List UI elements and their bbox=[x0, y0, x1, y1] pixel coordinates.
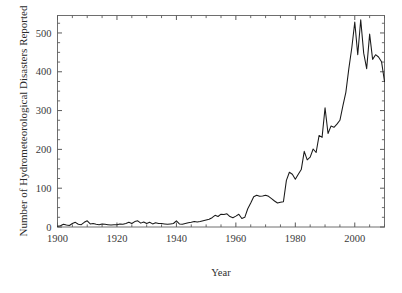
y-tick-label: 100 bbox=[36, 183, 52, 194]
y-axis-title: Number of Hydrometeorological Disasters … bbox=[17, 5, 29, 236]
data-series-line bbox=[58, 20, 385, 226]
y-tick-label: 200 bbox=[36, 144, 52, 155]
x-tick-label: 1900 bbox=[47, 233, 68, 244]
plot-frame bbox=[58, 16, 385, 228]
x-tick-label: 1920 bbox=[106, 233, 127, 244]
x-axis-minor-ticks bbox=[72, 16, 384, 228]
y-axis-minor-ticks bbox=[58, 23, 385, 217]
y-tick-label: 300 bbox=[36, 105, 52, 116]
x-axis-major-ticks bbox=[58, 16, 355, 228]
y-tick-label: 400 bbox=[36, 66, 52, 77]
y-axis-major-ticks bbox=[58, 33, 385, 227]
x-tick-label: 1980 bbox=[285, 233, 306, 244]
x-tick-label: 1940 bbox=[166, 233, 187, 244]
y-tick-label: 0 bbox=[46, 222, 51, 233]
x-axis-title: Year bbox=[211, 267, 231, 278]
y-tick-label: 500 bbox=[36, 28, 52, 39]
x-tick-label: 2000 bbox=[344, 233, 365, 244]
chart-figure: 190019201940196019802000 010020030040050… bbox=[0, 0, 402, 293]
y-axis-tick-labels: 0100200300400500 bbox=[36, 28, 52, 233]
x-tick-label: 1960 bbox=[225, 233, 246, 244]
line-chart-plot: 190019201940196019802000 010020030040050… bbox=[0, 0, 402, 293]
x-axis-tick-labels: 190019201940196019802000 bbox=[47, 233, 365, 244]
